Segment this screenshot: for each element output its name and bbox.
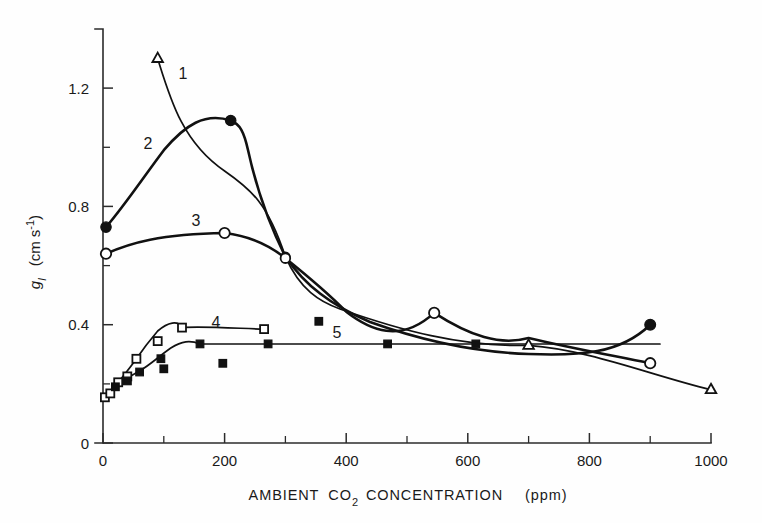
curve-label-5: 5 bbox=[333, 324, 342, 341]
x-axis-title-co2-sub: 2 bbox=[352, 496, 359, 508]
x-axis-title: AMBIENTCO2CONCENTRATION(ppm) bbox=[249, 487, 568, 508]
data-point-marker bbox=[178, 324, 186, 332]
data-point-marker bbox=[112, 383, 120, 391]
data-point-marker bbox=[152, 53, 163, 62]
series-2-markers bbox=[101, 115, 656, 330]
data-point-marker bbox=[472, 340, 480, 348]
y-tick-labels-group: 0 0.4 0.8 1.2 bbox=[68, 80, 89, 452]
data-point-marker bbox=[219, 228, 229, 238]
y-axis-title: gl(cm s-1) bbox=[24, 215, 48, 289]
data-point-marker bbox=[132, 355, 140, 363]
series-4-line bbox=[105, 323, 264, 397]
chart-svg: 0 0.4 0.8 1.2 0 200 400 600 800 bbox=[0, 0, 762, 523]
x-tick-label-800: 800 bbox=[577, 452, 602, 469]
data-point-marker bbox=[264, 340, 272, 348]
data-point-marker bbox=[219, 360, 227, 368]
x-tick-label-600: 600 bbox=[455, 452, 480, 469]
x-axis-title-units: (ppm) bbox=[525, 487, 567, 503]
curve-label-2: 2 bbox=[144, 135, 153, 152]
x-tick-label-1000: 1000 bbox=[694, 452, 727, 469]
data-point-marker bbox=[101, 222, 111, 232]
y-tick-label-0: 0 bbox=[81, 435, 89, 452]
x-tick-label-400: 400 bbox=[334, 452, 359, 469]
svg-text:AMBIENTCO2CONCENTRATION(ppm): AMBIENTCO2CONCENTRATION(ppm) bbox=[249, 487, 568, 508]
data-point-marker bbox=[315, 318, 323, 326]
curve-label-4: 4 bbox=[212, 314, 221, 331]
data-point-marker bbox=[429, 308, 439, 318]
curve-labels-group: 1 2 3 4 5 bbox=[144, 65, 342, 341]
data-point-marker bbox=[154, 337, 162, 345]
data-point-marker bbox=[136, 368, 144, 376]
series-4-markers bbox=[101, 324, 268, 402]
y-tick-label-0.4: 0.4 bbox=[68, 316, 89, 333]
data-point-marker bbox=[645, 358, 655, 368]
data-point-marker bbox=[196, 340, 204, 348]
x-axis-title-ambient: AMBIENT bbox=[249, 487, 320, 503]
data-point-marker bbox=[260, 325, 268, 333]
data-point-marker bbox=[645, 319, 656, 330]
svg-text:gl(cm s-1): gl(cm s-1) bbox=[24, 215, 48, 289]
curve-label-1: 1 bbox=[179, 65, 188, 82]
y-axis-line bbox=[95, 29, 103, 443]
x-axis-title-co2: CO bbox=[328, 487, 352, 503]
y-axis-title-exponent: -1 bbox=[24, 220, 36, 230]
data-point-marker bbox=[384, 340, 392, 348]
figure-container: 0 0.4 0.8 1.2 0 200 400 600 800 bbox=[0, 0, 762, 523]
data-point-marker bbox=[160, 365, 168, 373]
y-axis-title-units: (cm s bbox=[26, 230, 43, 267]
x-tick-label-0: 0 bbox=[99, 452, 107, 469]
x-ticks-group bbox=[103, 433, 711, 443]
x-tick-labels-group: 0 200 400 600 800 1000 bbox=[99, 452, 728, 469]
y-tick-label-0.8: 0.8 bbox=[68, 198, 89, 215]
data-point-marker bbox=[281, 253, 291, 263]
data-point-marker bbox=[157, 355, 165, 363]
data-point-marker bbox=[124, 377, 132, 385]
y-axis-title-subscript: l bbox=[36, 278, 48, 281]
x-axis-title-concentration: CONCENTRATION bbox=[366, 487, 503, 503]
series-5-markers bbox=[112, 318, 480, 391]
series-2-line bbox=[106, 118, 650, 355]
curve-label-3: 3 bbox=[192, 212, 201, 229]
y-tick-label-1.2: 1.2 bbox=[68, 80, 89, 97]
y-axis-title-units-close: ) bbox=[26, 215, 43, 220]
x-tick-label-200: 200 bbox=[212, 452, 237, 469]
data-point-marker bbox=[101, 249, 111, 259]
data-point-marker bbox=[226, 115, 236, 125]
